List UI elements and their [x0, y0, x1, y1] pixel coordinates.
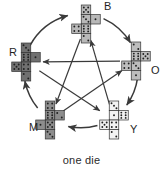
die-pip: [137, 58, 139, 60]
magenta-die-net: [36, 101, 65, 139]
die-pip: [120, 114, 122, 116]
die-pip: [133, 58, 135, 60]
die-pip: [23, 54, 25, 56]
die-pip: [115, 136, 117, 138]
die-pip: [135, 74, 137, 76]
yellow-die-net: [100, 101, 129, 139]
die-pip: [83, 28, 85, 30]
die-pip: [73, 26, 75, 28]
die-pip: [13, 64, 15, 66]
die-pip: [28, 49, 30, 51]
die-label-m: M: [29, 121, 38, 133]
die-pip: [16, 66, 18, 68]
die-pip: [115, 126, 117, 128]
die-pip: [87, 30, 89, 32]
die-face: [45, 101, 55, 111]
die-pip: [27, 64, 29, 66]
die-pip: [87, 25, 89, 27]
die-pip: [83, 16, 85, 18]
die-pip: [47, 131, 49, 133]
die-pip: [47, 103, 49, 105]
die-pip: [135, 65, 137, 67]
die-face: [21, 62, 31, 72]
die-pip: [101, 122, 103, 124]
die-pip: [138, 67, 140, 69]
die-face: [81, 34, 91, 44]
die-pip: [113, 114, 115, 116]
die-face: [109, 130, 119, 140]
die-pip: [120, 117, 122, 119]
die-pip: [104, 124, 106, 126]
die-pip: [125, 112, 127, 114]
die-face: [131, 52, 141, 62]
die-pip: [52, 136, 54, 138]
orange-die-net: [122, 42, 151, 80]
die-pip: [106, 126, 108, 128]
die-pip: [128, 67, 130, 69]
die-pip: [51, 117, 53, 119]
die-pip: [88, 21, 90, 23]
die-pip: [83, 30, 85, 32]
die-face: [109, 120, 119, 130]
arrow-O-to-R: [43, 61, 120, 62]
die-label-o: O: [151, 64, 160, 76]
die-pip: [111, 122, 113, 124]
die-face: [72, 24, 82, 34]
die-pip: [51, 126, 53, 128]
die-pip: [137, 55, 139, 57]
die-label-y: Y: [130, 123, 138, 135]
figure-caption: one die: [0, 154, 163, 166]
arrow-B-to-M: [56, 39, 80, 104]
inner-arrow-group: [39, 39, 122, 111]
die-pip: [83, 7, 85, 9]
die-pip: [47, 112, 49, 114]
die-pip: [123, 63, 125, 65]
die-pip: [133, 53, 135, 55]
die-pip: [125, 114, 127, 116]
die-pip: [49, 133, 51, 135]
die-pip: [47, 122, 49, 124]
die-pip: [61, 117, 63, 119]
die-pip: [23, 56, 25, 58]
die-pip: [142, 53, 144, 55]
die-pip: [51, 107, 53, 109]
die-pip: [51, 103, 53, 105]
die-pip: [87, 11, 89, 13]
die-pip: [27, 59, 29, 61]
die-pip: [51, 114, 53, 116]
arrow-R-to-B: [30, 16, 68, 46]
die-face: [45, 111, 55, 121]
die-pip: [95, 18, 97, 20]
die-pip: [51, 112, 53, 114]
die-face: [122, 61, 132, 71]
die-pip: [85, 9, 87, 11]
die-face: [21, 53, 31, 63]
die-pip: [35, 56, 37, 58]
die-face: [81, 24, 91, 34]
dice-cycle-figure: BOYMR: [0, 0, 163, 169]
die-pip: [18, 64, 20, 66]
die-pip: [85, 18, 87, 20]
die-pip: [115, 122, 117, 124]
die-face: [131, 42, 141, 52]
die-pip: [56, 112, 58, 114]
dice-group: [12, 5, 151, 139]
die-face: [119, 111, 129, 121]
die-pip: [87, 40, 89, 42]
die-pip: [147, 53, 149, 55]
die-pip: [145, 55, 147, 57]
arrow-Y-to-B: [91, 40, 110, 104]
die-pip: [23, 59, 25, 61]
die-pip: [142, 57, 144, 59]
die-pip: [49, 124, 51, 126]
die-pip: [116, 107, 118, 109]
die-pip: [78, 26, 80, 28]
die-pip: [111, 131, 113, 133]
die-pip: [23, 68, 25, 70]
die-pip: [27, 78, 29, 80]
die-pip: [47, 117, 49, 119]
die-face: [21, 72, 31, 82]
arrow-B-to-O: [104, 19, 131, 43]
die-pip: [78, 30, 80, 32]
die-pip: [111, 102, 113, 104]
